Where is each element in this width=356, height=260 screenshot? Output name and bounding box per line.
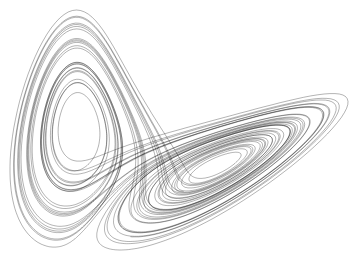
lorenz-attractor-figure [0,0,356,260]
attractor-plot [0,0,356,260]
